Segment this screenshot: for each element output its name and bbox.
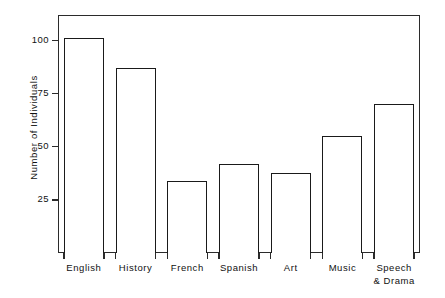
y-tick-mark [52, 199, 58, 200]
x-tick-mark [218, 253, 219, 259]
x-tick-mark [207, 253, 208, 259]
x-tick-mark [63, 253, 64, 259]
x-tick-mark [362, 253, 363, 259]
y-tick-mark [52, 40, 58, 41]
bar [271, 173, 311, 253]
y-tick-label: 25 [37, 193, 49, 204]
y-tick-mark [52, 93, 58, 94]
y-tick-label: 50 [37, 140, 49, 151]
x-tick-mark [270, 253, 271, 259]
bar [374, 104, 414, 253]
x-tick-mark [115, 253, 116, 259]
x-axis-label: Speech & Drama [358, 262, 430, 287]
bar-chart-figure: Number of Individuals 255075100 EnglishH… [0, 0, 445, 298]
x-tick-mark [155, 253, 156, 259]
y-tick-label: 100 [32, 34, 49, 45]
bar [322, 136, 362, 253]
bar [116, 68, 156, 253]
bar [219, 164, 259, 253]
bar [167, 181, 207, 253]
y-tick-mark [52, 146, 58, 147]
x-tick-mark [167, 253, 168, 259]
bar [64, 38, 104, 253]
y-axis-title: Number of Individuals [28, 48, 39, 208]
x-tick-mark [322, 253, 323, 259]
x-tick-mark [413, 253, 414, 259]
x-tick-mark [373, 253, 374, 259]
x-tick-mark [103, 253, 104, 259]
x-tick-mark [310, 253, 311, 259]
x-tick-mark [258, 253, 259, 259]
y-tick-label: 75 [37, 87, 49, 98]
